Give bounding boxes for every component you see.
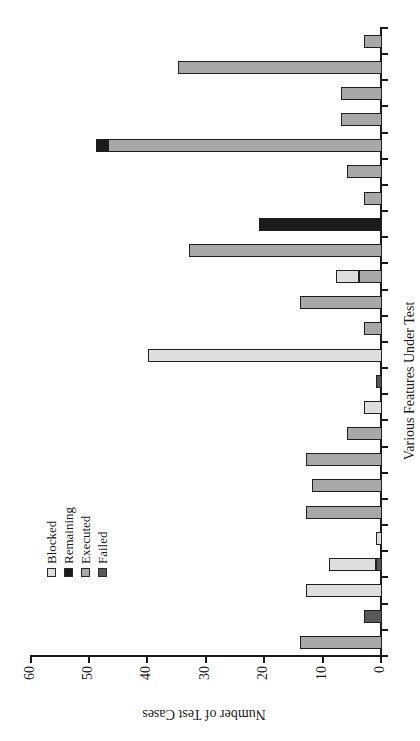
value-axis-tick bbox=[146, 656, 148, 663]
category-axis-tick bbox=[382, 132, 388, 134]
bar-segment-executed bbox=[312, 479, 382, 492]
bar-segment-failed bbox=[376, 375, 382, 388]
value-axis-tick bbox=[322, 656, 324, 663]
category-axis-tick bbox=[382, 577, 388, 579]
value-axis-tick-label: 30 bbox=[197, 666, 213, 700]
bar-segment-executed bbox=[364, 35, 382, 48]
category-axis-tick bbox=[382, 210, 388, 212]
value-axis-tick bbox=[205, 656, 207, 663]
y-axis-title: Number of Test Cases bbox=[142, 706, 266, 722]
legend-entry-remaining: Remaining bbox=[62, 507, 75, 577]
value-axis-tick-label: 60 bbox=[22, 666, 38, 700]
value-axis-tick-label: 20 bbox=[255, 666, 271, 700]
category-axis-tick bbox=[382, 420, 388, 422]
bar-segment-executed bbox=[300, 296, 382, 309]
legend-swatch-failed bbox=[98, 568, 107, 577]
legend-swatch-blocked bbox=[47, 568, 56, 577]
bar-segment-blocked bbox=[306, 584, 382, 597]
bar-segment-blocked bbox=[329, 558, 376, 571]
bar-segment-executed bbox=[306, 506, 382, 519]
bar-segment-executed bbox=[341, 113, 382, 126]
bar-segment-executed bbox=[347, 427, 382, 440]
x-axis-title: Various Features Under Test bbox=[402, 302, 418, 461]
value-axis-tick-label: 0 bbox=[372, 666, 388, 700]
category-axis-tick bbox=[382, 158, 388, 160]
category-axis-tick bbox=[382, 367, 388, 369]
category-axis-tick bbox=[382, 603, 388, 605]
bar-segment-blocked bbox=[376, 532, 382, 545]
category-axis-tick bbox=[382, 79, 388, 81]
bar-segment-remaining bbox=[259, 218, 382, 231]
category-axis-tick bbox=[382, 184, 388, 186]
bar-segment-executed bbox=[306, 453, 382, 466]
bar-segment-executed bbox=[347, 165, 382, 178]
category-axis-tick bbox=[382, 524, 388, 526]
legend-entry-executed: Executed bbox=[79, 516, 92, 577]
legend-label-failed: Failed bbox=[96, 532, 109, 565]
category-axis-tick bbox=[382, 27, 388, 29]
bar-segment-executed bbox=[364, 192, 382, 205]
value-axis-tick bbox=[30, 656, 32, 663]
category-axis-tick bbox=[382, 655, 388, 657]
value-axis-tick bbox=[380, 656, 382, 663]
category-axis-tick bbox=[382, 236, 388, 238]
legend-swatch-remaining bbox=[64, 568, 73, 577]
legend-swatch-executed bbox=[81, 568, 90, 577]
category-axis-tick bbox=[382, 106, 388, 108]
bar-segment-blocked bbox=[336, 270, 359, 283]
category-axis-tick bbox=[382, 550, 388, 552]
bar-segment-failed bbox=[376, 558, 382, 571]
legend-label-remaining: Remaining bbox=[62, 507, 75, 564]
value-axis-tick-label: 50 bbox=[80, 666, 96, 700]
bar-segment-blocked bbox=[148, 349, 382, 362]
category-axis-tick bbox=[382, 446, 388, 448]
bar-segment-executed bbox=[341, 87, 382, 100]
bar-segment-executed bbox=[108, 139, 382, 152]
bar-segment-executed bbox=[189, 244, 382, 257]
bar-segment-remaining bbox=[96, 139, 108, 152]
category-axis-tick bbox=[382, 393, 388, 395]
category-axis-tick bbox=[382, 289, 388, 291]
value-axis-tick bbox=[88, 656, 90, 663]
legend-entry-blocked: Blocked bbox=[45, 521, 58, 577]
bar-segment-blocked bbox=[364, 401, 382, 414]
category-axis-tick bbox=[382, 315, 388, 317]
value-axis-tick-label: 40 bbox=[138, 666, 154, 700]
category-axis-tick bbox=[382, 263, 388, 265]
rotated-stacked-bar-chart: 0102030405060 BlockedRemainingExecutedFa… bbox=[0, 0, 420, 741]
category-axis-tick bbox=[382, 498, 388, 500]
bar-segment-failed bbox=[364, 610, 382, 623]
value-axis-tick-label: 10 bbox=[314, 666, 330, 700]
legend-label-blocked: Blocked bbox=[45, 521, 58, 564]
legend-entry-failed: Failed bbox=[96, 532, 109, 578]
legend-label-executed: Executed bbox=[79, 516, 92, 564]
bar-segment-executed bbox=[364, 322, 382, 335]
value-axis-tick bbox=[263, 656, 265, 663]
bar-segment-executed bbox=[300, 636, 382, 649]
bar-segment-executed bbox=[178, 61, 382, 74]
category-axis-tick bbox=[382, 629, 388, 631]
category-axis-tick bbox=[382, 472, 388, 474]
category-axis-tick bbox=[382, 53, 388, 55]
category-axis-tick bbox=[382, 341, 388, 343]
bar-segment-executed bbox=[359, 270, 382, 283]
